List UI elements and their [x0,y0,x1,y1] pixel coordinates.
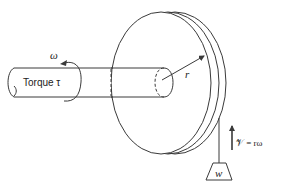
velocity-label: 𝒱 = rω [236,138,263,148]
omega-label: ω [50,49,58,61]
torque-label: Torque τ [23,77,60,88]
weight-label: w [215,167,223,179]
flywheel-front-face [111,12,211,154]
flywheel-diagram: r ω Torque τ w 𝒱 = rω [0,0,281,191]
radius-label: r [185,68,190,80]
